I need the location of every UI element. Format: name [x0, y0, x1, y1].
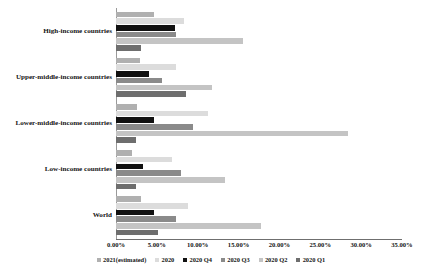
category-label: Lower-middle-income countries — [0, 119, 112, 127]
bar — [116, 216, 176, 222]
bar-row — [116, 64, 402, 70]
legend-swatch-icon — [97, 258, 101, 262]
bar-row — [116, 223, 402, 229]
x-axis-tick-label: 20.00% — [269, 241, 290, 248]
x-axis-tick-label: 25.00% — [310, 241, 331, 248]
bar — [116, 18, 184, 24]
bar-row — [116, 230, 402, 236]
bar — [116, 111, 208, 117]
legend-item-label: 2020 Q4 — [189, 256, 212, 263]
bar-row — [116, 111, 402, 117]
x-axis-tick-label: 35.00% — [391, 241, 412, 248]
bar-row — [116, 91, 402, 97]
bar — [116, 64, 176, 70]
bar-row — [116, 150, 402, 156]
legend-swatch-icon — [259, 258, 263, 262]
bar — [116, 230, 158, 236]
bar — [116, 157, 172, 163]
legend-item-label: 2020 Q3 — [227, 256, 250, 263]
bar — [116, 32, 176, 38]
bar — [116, 38, 243, 44]
bar — [116, 150, 132, 156]
x-axis-tick-label: 10.00% — [187, 241, 208, 248]
bar-row — [116, 137, 402, 143]
legend-item[interactable]: 2020 Q4 — [183, 256, 212, 263]
bar — [116, 12, 154, 18]
bar — [116, 58, 140, 64]
bar-row — [116, 177, 402, 183]
legend-item-label: 2021(estimated) — [103, 256, 146, 263]
category-label: World — [0, 211, 112, 219]
legend-swatch-icon — [296, 258, 300, 262]
bar-row — [116, 32, 402, 38]
bar — [116, 71, 149, 77]
legend-item[interactable]: 2020 Q2 — [259, 256, 288, 263]
bar — [116, 91, 186, 97]
bar — [116, 85, 212, 91]
bar — [116, 203, 188, 209]
x-axis-tick-label: 5.00% — [148, 241, 166, 248]
x-axis-tick-label: 30.00% — [350, 241, 371, 248]
bar-row — [116, 210, 402, 216]
legend-item[interactable]: 2020 Q3 — [221, 256, 250, 263]
bar-row — [116, 196, 402, 202]
legend-swatch-icon — [183, 258, 187, 262]
chart-container: High-income countriesUpper-middle-income… — [0, 0, 422, 277]
bar — [116, 170, 181, 176]
bar-row — [116, 104, 402, 110]
legend-swatch-icon — [221, 258, 225, 262]
bar — [116, 164, 143, 170]
legend-item-label: 2020 Q1 — [303, 256, 326, 263]
bar — [116, 124, 193, 130]
legend-item[interactable]: 2020 — [155, 256, 174, 263]
x-axis-tick-label: 15.00% — [228, 241, 249, 248]
bar-row — [116, 216, 402, 222]
bar-row — [116, 85, 402, 91]
bar-row — [116, 170, 402, 176]
bar — [116, 78, 162, 84]
bar — [116, 131, 348, 137]
bar-row — [116, 124, 402, 130]
bar-row — [116, 131, 402, 137]
legend-item-label: 2020 Q2 — [265, 256, 288, 263]
bar-row — [116, 203, 402, 209]
x-axis-tick-label: 0.00% — [107, 241, 125, 248]
bar-row — [116, 12, 402, 18]
bar-row — [116, 45, 402, 51]
legend-item[interactable]: 2021(estimated) — [97, 256, 147, 263]
bar — [116, 184, 136, 190]
bar-row — [116, 25, 402, 31]
category-label: Low-income countries — [0, 165, 112, 173]
bar-row — [116, 184, 402, 190]
bar — [116, 104, 137, 110]
bar — [116, 210, 154, 216]
bar-row — [116, 58, 402, 64]
bar-row — [116, 78, 402, 84]
bar — [116, 196, 141, 202]
category-label: Upper-middle-income countries — [0, 73, 112, 81]
bar — [116, 223, 261, 229]
bar — [116, 45, 141, 51]
bar — [116, 137, 136, 143]
legend-item[interactable]: 2020 Q1 — [296, 256, 325, 263]
bar-row — [116, 71, 402, 77]
bar — [116, 177, 225, 183]
category-label: High-income countries — [0, 27, 112, 35]
bar-row — [116, 38, 402, 44]
figure-caption — [4, 270, 204, 277]
chart-legend: 2021(estimated)20202020 Q42020 Q32020 Q2… — [0, 256, 422, 263]
legend-item-label: 2020 — [161, 256, 174, 263]
bar-row — [116, 157, 402, 163]
bar — [116, 25, 175, 31]
legend-swatch-icon — [155, 258, 159, 262]
bar-row — [116, 18, 402, 24]
bar-row — [116, 164, 402, 170]
x-axis-line — [116, 239, 402, 240]
bar-row — [116, 117, 402, 123]
bar — [116, 117, 154, 123]
